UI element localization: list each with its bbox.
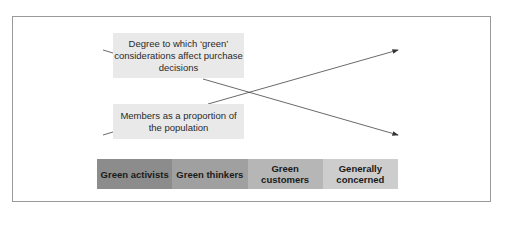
segment-green-thinkers: Green thinkers [172, 159, 247, 189]
members-label: Members as a proportion of the populatio… [113, 110, 244, 134]
segment-green-customers: Green customers [248, 159, 323, 189]
degree-label-box: Degree to which ‘green’ considerations a… [113, 33, 244, 78]
degree-line-start [103, 50, 113, 53]
degree-label: Degree to which ‘green’ considerations a… [113, 38, 244, 74]
segment-green-activists: Green activists [97, 159, 172, 189]
segment-generally-concerned: Generally concerned [323, 159, 398, 189]
members-line-start [103, 132, 113, 135]
segment-bar: Green activists Green thinkers Green cus… [97, 159, 398, 189]
members-label-box: Members as a proportion of the populatio… [113, 104, 244, 139]
